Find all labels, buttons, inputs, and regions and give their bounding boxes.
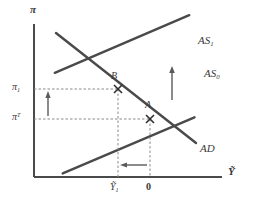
guide-lines-group — [34, 89, 150, 177]
as0-label-text: AS — [204, 67, 216, 79]
x-tick-zero: 0 — [146, 182, 151, 192]
as1-curve-label: AS1 — [198, 35, 214, 48]
as-shift-arrow-icon — [169, 66, 175, 100]
pi1-sub: 1 — [17, 86, 20, 93]
x-tick-y1: Ỹ1 — [110, 182, 119, 193]
curves-group — [49, 15, 200, 173]
pit-sup: T — [17, 111, 20, 118]
axes-group — [34, 24, 222, 177]
point-b-label: B — [111, 71, 117, 81]
as1-label-text: AS — [198, 34, 210, 46]
as0-label-sub: 0 — [216, 73, 219, 80]
y-tick-pi1: π1 — [12, 82, 20, 93]
y1-sub: 1 — [116, 186, 119, 193]
x-axis-label: Ỹ — [228, 166, 235, 177]
as1-label-sub: 1 — [210, 40, 213, 47]
y-axis-label: π — [30, 4, 36, 15]
output-fall-arrow-icon — [120, 162, 147, 167]
as0-curve-label: AS0 — [204, 68, 220, 81]
inflation-rise-arrow-icon — [45, 91, 50, 116]
point-a-label: A — [145, 100, 151, 110]
y-tick-pit: πT — [12, 112, 20, 122]
as-ad-diagram: π Ỹ AS1 AS0 AD B A π1 πT Ỹ1 0 — [0, 0, 257, 214]
ad-curve-label: AD — [200, 143, 215, 154]
diagram-canvas — [0, 0, 257, 214]
